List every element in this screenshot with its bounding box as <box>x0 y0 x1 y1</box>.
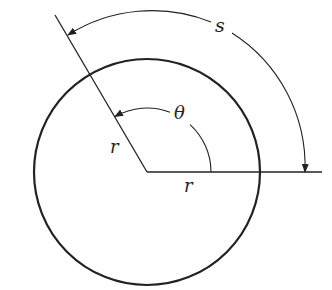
s-arc-right <box>232 33 305 172</box>
s-arc-left <box>68 11 211 35</box>
theta-arc-lower <box>190 125 211 172</box>
arc-length-label: s <box>215 14 225 36</box>
horizontal-radius-label: r <box>184 175 194 196</box>
theta-arc-upper <box>115 108 170 117</box>
arc-length-diagram: s θ r r <box>0 0 332 290</box>
theta-label: θ <box>174 102 185 123</box>
slanted-radius-line <box>55 15 147 172</box>
diagram-canvas: s θ r r <box>0 0 332 290</box>
slanted-radius-label: r <box>110 136 120 157</box>
